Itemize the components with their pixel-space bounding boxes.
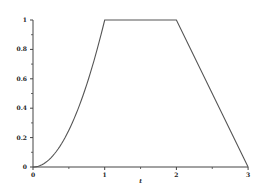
y-tick-label: 1 <box>23 16 27 23</box>
y-tick-label: 0.6 <box>17 75 27 82</box>
line-chart: 012300.20.40.60.81 t <box>0 0 266 187</box>
x-tick-label: 3 <box>246 171 250 178</box>
x-axis-label: t <box>139 177 142 184</box>
data-series-line <box>33 20 248 167</box>
y-tick-label: 0.2 <box>17 134 27 141</box>
axis-ticks <box>30 20 248 170</box>
y-tick-label: 0 <box>23 163 27 170</box>
tick-labels: 012300.20.40.60.81 <box>17 16 251 178</box>
y-tick-label: 0.4 <box>17 104 27 111</box>
x-tick-label: 1 <box>103 171 107 178</box>
x-tick-label: 0 <box>31 171 35 178</box>
x-tick-label: 2 <box>174 171 178 178</box>
y-tick-label: 0.8 <box>17 45 27 52</box>
axes <box>33 20 248 167</box>
